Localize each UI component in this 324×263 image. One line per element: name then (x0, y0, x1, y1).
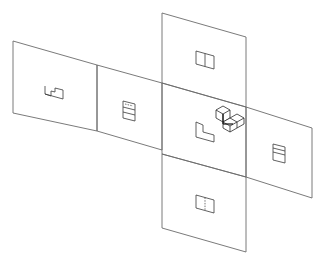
plane-right-side (246, 107, 312, 198)
left-side-view-shape (123, 101, 135, 121)
front-view-shape (196, 122, 214, 142)
right-side-view-shape (273, 144, 285, 163)
plane-left-side (97, 65, 162, 150)
projection-box-diagram (0, 0, 324, 263)
isometric-object (216, 106, 244, 132)
rear-view-shape (45, 86, 63, 99)
plane-top (162, 13, 246, 107)
plane-bottom (162, 154, 246, 252)
top-view-shape (196, 51, 214, 69)
plane-rear (13, 41, 97, 131)
bottom-view-shape (196, 195, 214, 213)
